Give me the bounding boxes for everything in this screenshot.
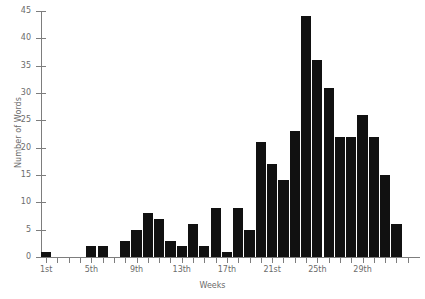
bar [391,224,401,257]
x-tick-mark [80,258,81,263]
bar [278,180,288,257]
bar [177,246,187,257]
x-tick-label: 13th [162,266,202,274]
x-tick-mark [408,258,409,263]
x-tick-label: 17th [207,266,247,274]
bar [380,175,390,257]
bar [290,131,300,257]
bar [312,60,322,257]
y-tick-label: 0 [0,253,31,261]
bar [301,16,311,257]
x-tick-label: 5th [71,266,111,274]
bar [86,246,96,257]
bar [165,241,175,257]
x-tick-mark [91,258,92,263]
x-tick-mark [137,258,138,263]
x-tick-label: 9th [117,266,157,274]
bar [267,164,277,257]
bar-chart: Number of Words Weeks 051015202530354045… [0,0,425,299]
x-tick-mark [306,258,307,263]
x-tick-mark [114,258,115,263]
x-tick-mark [69,258,70,263]
bar [369,137,379,257]
x-tick-mark [272,258,273,263]
y-tick-label: 15 [0,171,31,179]
y-tick-label: 40 [0,34,31,42]
x-tick-mark [283,258,284,263]
y-tick-label: 10 [0,198,31,206]
x-tick-mark [238,258,239,263]
y-tick-label: 20 [0,144,31,152]
x-tick-mark [170,258,171,263]
bar [143,213,153,257]
x-tick-mark [182,258,183,263]
bars-layer [41,11,420,257]
x-tick-mark [103,258,104,263]
bar [98,246,108,257]
x-tick-mark [329,258,330,263]
x-tick-label: 29th [343,266,383,274]
bar [357,115,367,257]
bar [335,137,345,257]
bar [256,142,266,257]
x-axis-label: Weeks [0,281,425,290]
x-tick-label: 21st [252,266,292,274]
x-tick-mark [396,258,397,263]
x-tick-mark [351,258,352,263]
x-tick-label: 25th [297,266,337,274]
x-tick-label: 1st [26,266,66,274]
bar [120,241,130,257]
x-tick-mark [363,258,364,263]
x-tick-mark [125,258,126,263]
y-tick-label: 25 [0,116,31,124]
y-tick-label: 30 [0,89,31,97]
x-tick-mark [227,258,228,263]
y-tick-label: 45 [0,7,31,15]
x-tick-mark [148,258,149,263]
bar [131,230,141,257]
bar [154,219,164,257]
x-tick-mark [250,258,251,263]
bar [222,252,232,257]
bar [41,252,51,257]
x-tick-mark [385,258,386,263]
bar [188,224,198,257]
x-tick-mark [216,258,217,263]
bar [324,88,334,257]
x-tick-mark [261,258,262,263]
bar [244,230,254,257]
x-tick-mark [374,258,375,263]
x-tick-mark [204,258,205,263]
x-tick-mark [340,258,341,263]
bar [199,246,209,257]
y-tick-label: 5 [0,226,31,234]
bar [233,208,243,257]
x-tick-mark [193,258,194,263]
x-tick-mark [295,258,296,263]
bar [211,208,221,257]
y-tick-mark [36,257,46,258]
x-tick-mark [317,258,318,263]
x-tick-mark [46,258,47,263]
x-tick-mark [57,258,58,263]
y-tick-label: 35 [0,62,31,70]
bar [346,137,356,257]
x-tick-mark [159,258,160,263]
